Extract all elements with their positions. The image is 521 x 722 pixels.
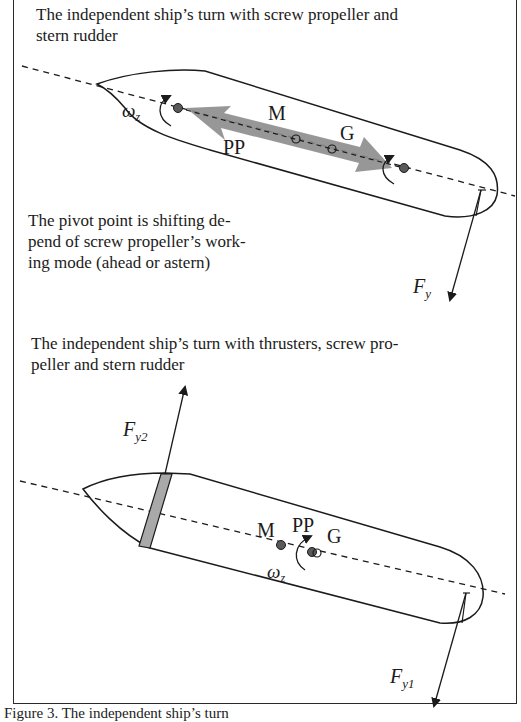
label-PP: PP (223, 136, 245, 158)
bow-thruster (139, 474, 172, 548)
label-omega-z: ωz (122, 100, 140, 124)
bow-pivot-point (174, 104, 183, 113)
label-omega-z-bottom: ωz (267, 561, 285, 585)
point-M-bottom (277, 541, 286, 550)
force-Fy2-arrow (165, 387, 185, 474)
pivot-shift-double-arrow (186, 106, 392, 172)
label-Fy2: Fy2 (122, 418, 148, 444)
label-PP-bottom: PP (292, 514, 314, 536)
top-ship: ωz M G PP Fy (22, 66, 515, 301)
force-Fy1-arrow (434, 593, 466, 706)
label-M-bottom: M (257, 519, 275, 541)
figure-caption: Figure 3. The independent ship’s turn (4, 704, 229, 722)
stern-pivot-point (400, 164, 409, 173)
label-G: G (340, 122, 354, 144)
label-M: M (268, 102, 286, 124)
label-Fy: Fy (412, 275, 431, 301)
bottom-ship: Fy2 M PP G ωz Fy1 (20, 387, 505, 706)
top-bow-rotation-arrow (160, 96, 171, 126)
label-Fy1: Fy1 (389, 665, 415, 691)
label-G-bottom: G (327, 525, 341, 547)
force-Fy-arrow (450, 190, 481, 300)
